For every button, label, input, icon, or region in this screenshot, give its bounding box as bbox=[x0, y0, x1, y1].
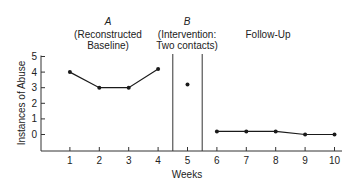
y-tick-label: 1 bbox=[31, 113, 37, 124]
data-point bbox=[97, 86, 101, 90]
data-point bbox=[215, 129, 219, 133]
data-point bbox=[274, 129, 278, 133]
data-point bbox=[303, 133, 307, 137]
y-tick-label: 3 bbox=[31, 82, 37, 93]
x-tick-label: 8 bbox=[273, 155, 279, 166]
x-tick-label: 1 bbox=[67, 155, 73, 166]
x-tick-label: 10 bbox=[329, 155, 341, 166]
phase-description: Baseline) bbox=[87, 40, 129, 51]
phase-letter: B bbox=[184, 16, 191, 27]
data-point bbox=[333, 133, 337, 137]
x-tick-label: 3 bbox=[126, 155, 132, 166]
phase-description: Follow-Up bbox=[245, 29, 290, 40]
data-point bbox=[186, 83, 190, 87]
x-tick-label: 9 bbox=[302, 155, 308, 166]
phase-dividers bbox=[173, 54, 202, 151]
x-axis: 12345678910 bbox=[41, 147, 342, 166]
x-tick-label: 6 bbox=[214, 155, 220, 166]
x-axis-label: Weeks bbox=[172, 169, 202, 180]
y-tick-label: 4 bbox=[31, 67, 37, 78]
phase-letter: A bbox=[104, 16, 112, 27]
data-point bbox=[156, 67, 160, 71]
y-tick-label: 2 bbox=[31, 98, 37, 109]
data-point bbox=[127, 86, 131, 90]
abab-chart: 012345 12345678910 A(ReconstructedBaseli… bbox=[0, 0, 356, 185]
phase-labels: A(ReconstructedBaseline)B(Intervention:T… bbox=[74, 16, 291, 51]
phase-description: (Reconstructed bbox=[74, 29, 142, 40]
phase-description: Two contacts) bbox=[156, 40, 218, 51]
y-tick-label: 0 bbox=[31, 129, 37, 140]
x-tick-label: 7 bbox=[244, 155, 250, 166]
y-axis: 012345 bbox=[31, 51, 45, 151]
data-point bbox=[68, 70, 72, 74]
x-tick-label: 5 bbox=[185, 155, 191, 166]
x-tick-label: 2 bbox=[97, 155, 103, 166]
x-tick-label: 4 bbox=[155, 155, 161, 166]
data-point bbox=[244, 129, 248, 133]
y-tick-label: 5 bbox=[31, 51, 37, 62]
phase-line bbox=[70, 69, 158, 88]
phase-description: (Intervention: bbox=[158, 29, 216, 40]
y-axis-label: Instances of Abuse bbox=[16, 60, 27, 145]
